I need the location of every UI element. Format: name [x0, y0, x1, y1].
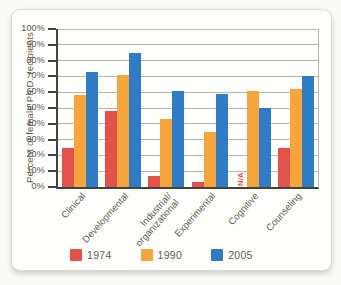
- y-tick-mark: [48, 28, 56, 30]
- legend-label: 2005: [228, 249, 253, 261]
- y-tick-label: 0%: [11, 181, 45, 191]
- y-tick-mark: [48, 75, 56, 77]
- y-tick-label: 60%: [11, 86, 45, 96]
- y-tick-mark: [48, 60, 56, 62]
- bar-2005: [259, 108, 271, 187]
- bar-1990: [160, 119, 172, 187]
- legend-item: 2005: [211, 249, 253, 261]
- y-tick-mark: [48, 186, 56, 188]
- legend-item: 1990: [141, 249, 183, 261]
- legend-swatch-1974: [70, 249, 82, 261]
- legend-label: 1974: [87, 249, 112, 261]
- y-tick-label: 20%: [11, 149, 45, 159]
- bar-1990: [290, 89, 302, 187]
- bar-1974: [278, 148, 290, 188]
- gridline: [58, 60, 318, 61]
- bar-1990: [247, 91, 259, 187]
- bar-1974: [192, 182, 204, 187]
- bar-2005: [216, 94, 228, 187]
- y-tick-label: 50%: [11, 102, 45, 112]
- y-tick-label: 70%: [11, 70, 45, 80]
- y-tick-mark: [48, 107, 56, 109]
- bar-1990: [74, 95, 86, 187]
- legend-swatch-2005: [211, 249, 223, 261]
- gridline: [58, 29, 318, 30]
- y-tick-mark: [48, 44, 56, 46]
- page-background: Percent of female Ph.D. recipients 0%10%…: [0, 0, 341, 285]
- gridline: [58, 44, 318, 45]
- chart-card: Percent of female Ph.D. recipients 0%10%…: [11, 9, 332, 271]
- bar-1974: [148, 176, 160, 187]
- legend-item: 1974: [70, 249, 112, 261]
- na-label: N/A: [235, 159, 247, 186]
- bar-1974: [105, 111, 117, 187]
- bar-1990: [204, 132, 216, 187]
- bar-2005: [172, 91, 184, 187]
- bar-1974: [62, 148, 74, 188]
- y-tick-label: 100%: [11, 23, 45, 33]
- bar-2005: [129, 53, 141, 187]
- y-tick-label: 10%: [11, 165, 45, 175]
- bar-2005: [302, 76, 314, 187]
- bar-2005: [86, 72, 98, 187]
- y-tick-label: 30%: [11, 134, 45, 144]
- y-tick-mark: [48, 91, 56, 93]
- legend-label: 1990: [158, 249, 183, 261]
- y-tick-mark: [48, 139, 56, 141]
- y-tick-mark: [48, 123, 56, 125]
- y-tick-label: 80%: [11, 55, 45, 65]
- y-tick-label: 40%: [11, 118, 45, 128]
- x-axis-labels: ClinicalDevelopmentalIndustrial/ organiz…: [12, 191, 331, 251]
- legend-swatch-1990: [141, 249, 153, 261]
- y-tick-mark: [48, 170, 56, 172]
- bar-1990: [117, 75, 129, 187]
- plot-area: 0%10%20%30%40%50%60%70%80%90%100%N/A: [56, 29, 319, 189]
- y-tick-label: 90%: [11, 39, 45, 49]
- y-tick-mark: [48, 154, 56, 156]
- legend: 197419902005: [70, 249, 253, 261]
